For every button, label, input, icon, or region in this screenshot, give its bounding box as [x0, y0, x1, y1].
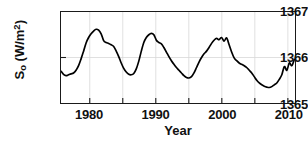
y-axis-title-unit-open: (W/m	[12, 30, 27, 65]
y-axis-title-superscript: 2	[11, 24, 22, 29]
xtick-label-2000: 2000	[197, 108, 247, 121]
solar-irradiance-figure: 1367 1366 1365 1980 1990 2000 2010 Year …	[0, 0, 308, 144]
x-axis-title: Year	[60, 124, 296, 137]
xtick-label-2010: 2010	[264, 108, 308, 121]
ytick-label-1366: 1366	[254, 51, 308, 64]
xtick-label-1980: 1980	[64, 108, 114, 121]
xtick-label-1990: 1990	[131, 108, 181, 121]
y-axis-title: So (W/m2)	[12, 0, 28, 105]
y-axis-title-subscript: o	[17, 65, 28, 71]
y-axis-title-unit-close: )	[12, 20, 27, 24]
ytick-label-1367: 1367	[254, 5, 308, 18]
y-axis-title-symbol: S	[12, 71, 27, 80]
